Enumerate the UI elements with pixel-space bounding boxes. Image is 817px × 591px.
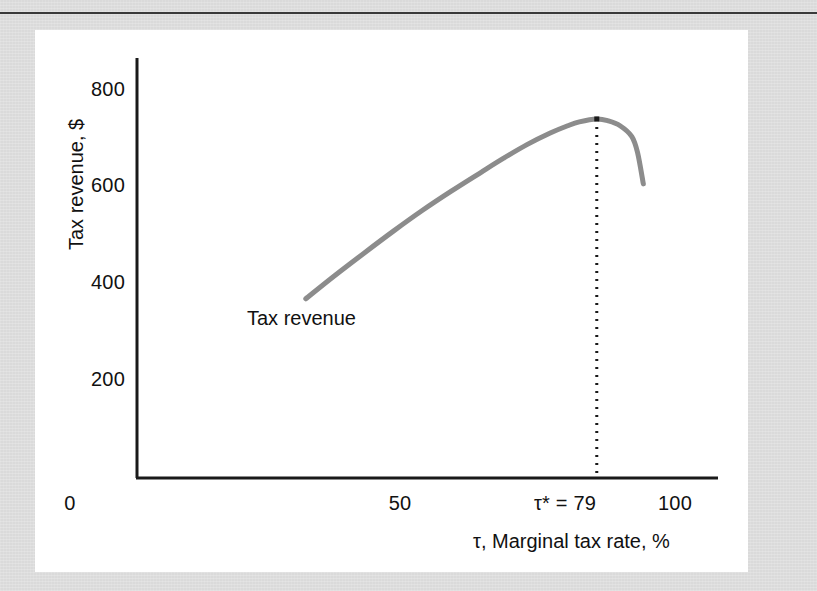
x-tick-label-0: 0 xyxy=(40,492,100,515)
y-tick-label-600: 600 xyxy=(73,174,125,197)
y-tick-label-800: 800 xyxy=(73,78,125,101)
tax-revenue-laffer-curve-chart xyxy=(35,30,748,572)
x-tick-label-100: 100 xyxy=(645,492,705,515)
tax-revenue-curve xyxy=(306,119,644,299)
y-tick-label-400: 400 xyxy=(73,271,125,294)
series-label-tax-revenue: Tax revenue xyxy=(247,307,356,330)
figure-root: Tax revenue, $ 800 600 400 200 0 50 τ* =… xyxy=(0,0,817,591)
chart-panel: Tax revenue, $ 800 600 400 200 0 50 τ* =… xyxy=(35,30,748,572)
x-tick-label-50: 50 xyxy=(370,492,430,515)
x-axis-title: τ, Marginal tax rate, % xyxy=(473,530,670,553)
y-tick-label-200: 200 xyxy=(73,368,125,391)
page-top-rule xyxy=(0,12,817,14)
optimum-point-marker xyxy=(594,116,599,121)
x-tick-label-tau-star: τ* = 79 xyxy=(505,492,625,515)
